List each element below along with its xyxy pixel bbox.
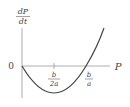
origin-label: 0 — [8, 61, 14, 71]
y-label-denominator: dt — [19, 17, 28, 26]
x-label: P — [114, 61, 122, 72]
tick-b-2a-denominator: 2a — [49, 80, 59, 88]
tick-b-a-numerator: b — [87, 71, 92, 79]
tick-b-a-denominator: a — [87, 80, 91, 88]
tick-b-2a-numerator: b — [52, 71, 57, 79]
y-label-numerator: dP — [18, 7, 29, 16]
parabola-curve — [22, 28, 104, 93]
parabola-chart: dP dt 0 P b 2a b a — [0, 0, 130, 107]
